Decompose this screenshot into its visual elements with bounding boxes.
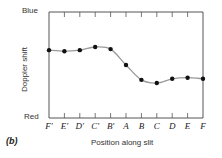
data-point — [201, 77, 205, 81]
x-tick-label: B — [139, 121, 145, 131]
x-tick-label: B' — [107, 121, 114, 131]
x-tick-label: A — [123, 121, 129, 131]
x-axis-title: Position along slit — [91, 138, 153, 147]
panel-label: (b) — [6, 136, 18, 146]
x-tick-label: F' — [45, 121, 52, 131]
data-point — [93, 45, 97, 49]
x-tick-label: E' — [61, 121, 68, 131]
data-point — [185, 76, 189, 80]
data-point — [155, 81, 159, 85]
data-point — [108, 47, 112, 51]
data-point — [170, 77, 174, 81]
data-point — [124, 63, 128, 67]
x-tick-label: E — [185, 121, 191, 131]
data-point — [62, 49, 66, 53]
data-point — [47, 48, 51, 52]
x-tick-label: F — [200, 121, 206, 131]
x-tick-label: D — [169, 121, 176, 131]
chart-plot — [0, 0, 222, 158]
y-axis-top-label: Blue — [22, 6, 38, 15]
y-axis-title: Doppler shift — [20, 47, 29, 92]
data-point — [78, 48, 82, 52]
x-tick-label: C' — [91, 121, 99, 131]
x-tick-label: D' — [76, 121, 84, 131]
y-axis-bottom-label: Red — [24, 112, 39, 121]
data-point — [139, 78, 143, 82]
x-tick-label: C — [154, 121, 160, 131]
